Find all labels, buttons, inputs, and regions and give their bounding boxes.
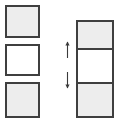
right-stack-cell-1 (76, 20, 114, 50)
left-box-3 (5, 82, 40, 118)
diagram-canvas (0, 0, 118, 125)
left-box-1 (5, 5, 40, 38)
right-stack-cell-3 (76, 84, 114, 118)
left-box-2 (5, 44, 40, 76)
gap-arrow-upper-icon (64, 41, 71, 59)
gap-arrow-lower-icon (64, 71, 71, 89)
right-stack-cell-2 (76, 50, 114, 84)
